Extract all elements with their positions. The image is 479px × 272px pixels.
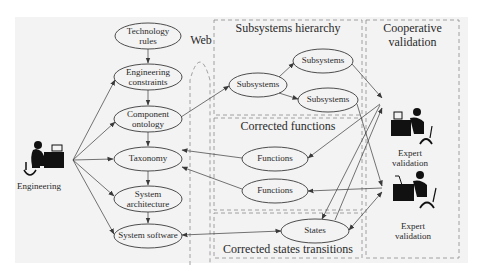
label-line: Taxonomy [114,153,182,163]
label-system-architecture: System architecture [114,189,182,210]
label-web: Web [186,34,216,48]
title-corrected-states-transitions: Corrected states transitions [214,243,362,257]
label-taxonomy: Taxonomy [114,153,182,163]
label-subsystems-upper: Subsystems [293,55,353,65]
engineering-person-icon [24,141,64,175]
title-corrected-functions: Corrected functions [214,120,362,134]
label-line: Engineering [114,67,182,77]
title-subsystems-hierarchy: Subsystems hierarchy [214,22,362,36]
label-engineering-constraints: Engineering constraints [114,67,182,88]
label-line: System software [114,230,182,240]
title-cooperative-validation: Cooperative validation [366,22,459,50]
label-functions-2: Functions [242,185,308,195]
label-line: System [114,189,182,199]
label-line: Component [114,109,182,119]
label-technology-rules: Technology rules [118,26,178,47]
label-line: constraints [114,77,182,87]
label-line: validation [383,231,443,241]
label-states: States [281,225,349,235]
label-line: Expert [380,148,440,158]
label-expert-validation-2: Expert validation [383,221,443,242]
label-system-software: System software [114,230,182,240]
expert-2-person-icon [393,171,436,208]
label-line: validation [366,36,459,50]
label-subsystems-lower: Subsystems [298,94,358,104]
label-line: ontology [114,119,182,129]
label-subsystems-main: Subsystems [229,79,287,89]
label-functions-1: Functions [242,153,308,163]
label-component-ontology: Component ontology [114,109,182,130]
label-expert-validation-1: Expert validation [380,148,440,169]
label-line: architecture [114,199,182,209]
label-engineering: Engineering [14,181,64,191]
label-line: rules [118,36,178,46]
label-line: Expert [383,221,443,231]
label-line: Cooperative [366,22,459,36]
label-line: validation [380,158,440,168]
expert-1-person-icon [391,108,432,144]
label-line: Technology [118,26,178,36]
